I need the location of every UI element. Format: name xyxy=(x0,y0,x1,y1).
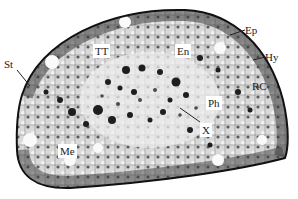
label-x: X xyxy=(200,123,212,137)
leaf-body xyxy=(17,10,288,188)
label-en: En xyxy=(175,44,191,58)
label-ph: Ph xyxy=(206,96,222,110)
label-ep: Ep xyxy=(245,24,257,36)
label-me: Me xyxy=(58,144,77,158)
pointer-st xyxy=(17,70,30,86)
label-rc: RC xyxy=(250,79,269,93)
label-tt: TT xyxy=(93,44,110,58)
label-hy: Hy xyxy=(265,51,278,63)
label-st: St xyxy=(4,58,13,70)
